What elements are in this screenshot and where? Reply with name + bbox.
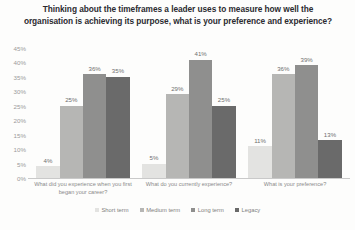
bar-set: 11%36%39%13%: [248, 48, 341, 178]
y-axis-tick: 20%: [0, 117, 26, 124]
bar-value-label: 25%: [218, 96, 230, 103]
bar-value-label: 5%: [150, 154, 159, 161]
bar-slot: 25%: [212, 48, 235, 178]
y-axis-tick: 30%: [0, 88, 26, 95]
category-labels: What did you experience when you first b…: [30, 181, 348, 201]
bar-slot: 5%: [142, 48, 165, 178]
legend-swatch-icon: [140, 208, 144, 212]
bar-value-label: 29%: [171, 85, 183, 92]
bar-groups: 4%25%36%35%5%29%41%25%11%36%39%13%: [30, 48, 348, 178]
chart-container: Thinking about the timeframes a leader u…: [0, 0, 355, 230]
category-label: What do you currently experience?: [136, 181, 242, 201]
y-axis-tick: 40%: [0, 59, 26, 66]
y-axis-tick: 45%: [0, 45, 26, 52]
bar-value-label: 41%: [195, 50, 207, 57]
legend-label: Long term: [198, 207, 224, 213]
bar-group: 5%29%41%25%: [136, 48, 242, 178]
legend-label: Medium term: [146, 207, 180, 213]
legend-item-short-term[interactable]: Short term: [95, 207, 129, 213]
bar-slot: 29%: [166, 48, 189, 178]
bar-value-label: 25%: [65, 96, 77, 103]
bar-slot: 36%: [83, 48, 106, 178]
bar-long-term[interactable]: 39%: [295, 65, 318, 178]
bar-slot: 4%: [36, 48, 59, 178]
x-axis-baseline: [28, 178, 350, 179]
plot-area: 4%25%36%35%5%29%41%25%11%36%39%13%: [30, 48, 348, 178]
bar-value-label: 39%: [301, 56, 313, 63]
bar-medium-term[interactable]: 25%: [60, 106, 83, 178]
bar-slot: 41%: [189, 48, 212, 178]
bar-value-label: 11%: [254, 137, 266, 144]
bar-short-term[interactable]: 4%: [36, 166, 59, 178]
y-axis-tick: 25%: [0, 102, 26, 109]
bar-legacy[interactable]: 35%: [106, 77, 129, 178]
bar-short-term[interactable]: 11%: [248, 146, 271, 178]
legend-swatch-icon: [191, 208, 195, 212]
bar-slot: 13%: [318, 48, 341, 178]
bar-slot: 11%: [248, 48, 271, 178]
y-axis-tick: 10%: [0, 146, 26, 153]
y-axis-tick: 15%: [0, 131, 26, 138]
bar-set: 4%25%36%35%: [36, 48, 129, 178]
bar-legacy[interactable]: 13%: [318, 140, 341, 178]
chart-legend: Short termMedium termLong termLegacy: [0, 207, 355, 213]
bar-value-label: 13%: [324, 131, 336, 138]
bar-slot: 25%: [60, 48, 83, 178]
legend-label: Short term: [101, 207, 128, 213]
bar-value-label: 36%: [89, 65, 101, 72]
bar-set: 5%29%41%25%: [142, 48, 235, 178]
bar-value-label: 35%: [112, 67, 124, 74]
legend-swatch-icon: [235, 208, 239, 212]
y-axis-tick: 5%: [0, 160, 26, 167]
bar-medium-term[interactable]: 29%: [166, 94, 189, 178]
bar-slot: 39%: [295, 48, 318, 178]
legend-swatch-icon: [95, 208, 99, 212]
bar-short-term[interactable]: 5%: [142, 164, 165, 178]
legend-item-legacy[interactable]: Legacy: [235, 207, 260, 213]
bar-legacy[interactable]: 25%: [212, 106, 235, 178]
bar-medium-term[interactable]: 36%: [272, 74, 295, 178]
category-label: What is your preference?: [242, 181, 348, 201]
y-axis-tick: 0%: [0, 175, 26, 182]
y-axis-tick: 35%: [0, 73, 26, 80]
y-axis: 0%5%10%15%20%25%30%35%40%45%: [0, 48, 28, 178]
category-label: What did you experience when you first b…: [30, 181, 136, 201]
bar-slot: 36%: [272, 48, 295, 178]
bar-value-label: 36%: [277, 65, 289, 72]
legend-item-medium-term[interactable]: Medium term: [140, 207, 181, 213]
bar-group: 11%36%39%13%: [242, 48, 348, 178]
bar-value-label: 4%: [44, 157, 53, 164]
legend-item-long-term[interactable]: Long term: [191, 207, 224, 213]
legend-label: Legacy: [242, 207, 261, 213]
bar-slot: 35%: [106, 48, 129, 178]
bar-long-term[interactable]: 36%: [83, 74, 106, 178]
bar-group: 4%25%36%35%: [30, 48, 136, 178]
bar-long-term[interactable]: 41%: [189, 60, 212, 178]
chart-title: Thinking about the timeframes a leader u…: [22, 4, 334, 27]
